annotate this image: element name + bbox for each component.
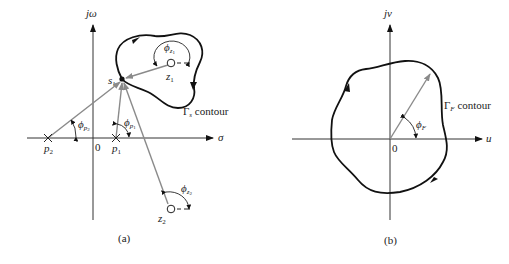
angle-arc-phi-p2 — [71, 120, 76, 137]
pole-p2-label: p2 — [43, 142, 54, 156]
gamma-f-contour-label: ΓF contour — [444, 99, 491, 113]
contour-direction-arrow-icon — [190, 82, 197, 90]
vector-p1-to-s1 — [116, 83, 122, 138]
angle-arc-phi-f — [405, 118, 416, 138]
gamma-s-contour-label: Γs contour — [183, 105, 229, 119]
zero-z2-label: z2 — [157, 212, 166, 226]
zero-z1 — [167, 59, 175, 67]
pole-p1-label: p1 — [111, 142, 122, 156]
origin-label-a: 0 — [95, 141, 101, 153]
angle-label-phi-f: ϕF — [416, 118, 427, 132]
angle-label-phi-p1: ϕp1 — [124, 116, 136, 130]
angle-label-phi-z1: ϕz1 — [164, 41, 175, 55]
test-point-s1 — [119, 76, 124, 81]
sigma-axis-label: σ — [218, 131, 224, 143]
caption-a: (a) — [118, 232, 131, 245]
caption-b: (b) — [384, 234, 397, 247]
u-axis-label: u — [486, 132, 492, 144]
contour-direction-arrow-icon — [132, 37, 140, 44]
origin-label-b: 0 — [392, 142, 398, 154]
j-omega-axis-label: jω — [84, 7, 97, 19]
angle-label-phi-p2: ϕp2 — [78, 118, 90, 132]
zero-z1-label: z1 — [165, 70, 174, 84]
zero-z2 — [167, 205, 175, 213]
mapping-diagram: jω σ 0 Γs contour s1 p2 p1 z1 — [0, 0, 509, 264]
angle-label-phi-z2: ϕz2 — [181, 182, 192, 196]
jv-axis-label: jv — [382, 7, 392, 19]
s-plane-figure: jω σ 0 Γs contour s1 p2 p1 z1 — [27, 7, 229, 245]
gamma-f-contour — [331, 61, 447, 193]
f-plane-figure: jv u 0 ΓF contour ϕF (b) — [292, 7, 492, 247]
vector-z1-to-s1 — [126, 65, 168, 78]
